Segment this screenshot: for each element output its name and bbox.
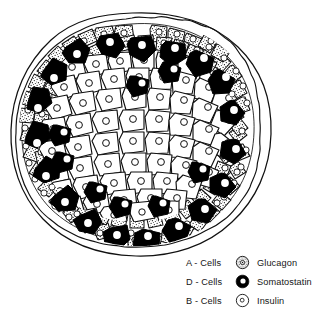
islet-figure: A - Cells [0,0,317,320]
legend-row-a-cells: A - Cells [186,253,314,272]
legend-row-b-cells: B - Cells Insulin [186,291,314,310]
legend-label-a-cells: A - Cells [186,258,232,268]
open-cell-icon [232,292,252,309]
legend-hormone-glucagon: Glucagon [257,258,297,268]
legend-label-b-cells: B - Cells [186,296,232,306]
black-cell-icon [232,273,252,290]
legend-label-d-cells: D - Cells [186,277,232,287]
stippled-cell-icon [232,254,252,271]
legend-hormone-somatostatin: Somatostatin [257,277,312,287]
legend-row-d-cells: D - Cells Somatostatin [186,272,314,291]
legend-hormone-insulin: Insulin [257,296,284,306]
cell-type-legend: A - Cells [186,253,314,310]
